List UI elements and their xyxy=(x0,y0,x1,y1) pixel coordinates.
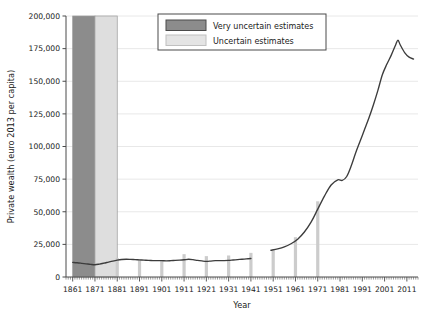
uncertainty-bar xyxy=(182,254,185,277)
y-tick-label: 100,000 xyxy=(29,142,61,151)
x-tick-label: 1981 xyxy=(330,285,349,294)
shaded-uncertainty-bands xyxy=(73,16,118,277)
x-tick-label: 1861 xyxy=(63,285,82,294)
x-tick-label: 1971 xyxy=(308,285,327,294)
legend-label: Uncertain estimates xyxy=(213,37,294,46)
y-tick-label: 75,000 xyxy=(33,175,60,184)
very-uncertain-band xyxy=(73,16,95,277)
x-tick-label: 1941 xyxy=(241,285,260,294)
x-tick-label: 1961 xyxy=(286,285,305,294)
y-tick-label: 200,000 xyxy=(29,12,61,21)
y-tick-label: 150,000 xyxy=(29,77,61,86)
x-tick-label: 1901 xyxy=(152,285,171,294)
x-tick-label: 1991 xyxy=(353,285,372,294)
x-tick-label: 2001 xyxy=(375,285,394,294)
y-tick-label: 50,000 xyxy=(33,208,60,217)
private-wealth-line-chart: 025,00050,00075,000100,000125,000150,000… xyxy=(0,0,425,320)
y-tick-label: 125,000 xyxy=(29,110,61,119)
x-tick-label: 1931 xyxy=(219,285,238,294)
x-tick-label: 1891 xyxy=(130,285,149,294)
chart-container: 025,00050,00075,000100,000125,000150,000… xyxy=(0,0,425,320)
y-tick-label: 175,000 xyxy=(29,44,61,53)
legend-label: Very uncertain estimates xyxy=(213,22,313,31)
uncertain-band xyxy=(95,16,117,277)
uncertainty-bar xyxy=(272,250,275,277)
uncertainty-bar xyxy=(249,253,252,277)
x-tick-label: 1881 xyxy=(108,285,127,294)
uncertainty-bar xyxy=(160,261,163,277)
y-tick-label: 0 xyxy=(55,273,60,282)
y-tick-label: 25,000 xyxy=(33,240,60,249)
uncertainty-bar xyxy=(205,256,208,277)
x-tick-label: 1871 xyxy=(85,285,104,294)
legend-swatch-uncertain xyxy=(166,35,206,46)
x-axis-title: Year xyxy=(232,300,251,310)
x-tick-label: 1951 xyxy=(264,285,283,294)
uncertainty-bar xyxy=(294,237,297,277)
chart-legend: Very uncertain estimatesUncertain estima… xyxy=(158,14,326,50)
y-axis-title: Private wealth (euro 2013 per capita) xyxy=(6,70,16,223)
x-tick-label: 1911 xyxy=(174,285,193,294)
x-tick-label: 1921 xyxy=(197,285,216,294)
legend-swatch-very-uncertain xyxy=(166,20,206,31)
uncertainty-bar xyxy=(227,255,230,277)
x-tick-label: 2011 xyxy=(397,285,416,294)
uncertainty-bar xyxy=(138,260,141,277)
